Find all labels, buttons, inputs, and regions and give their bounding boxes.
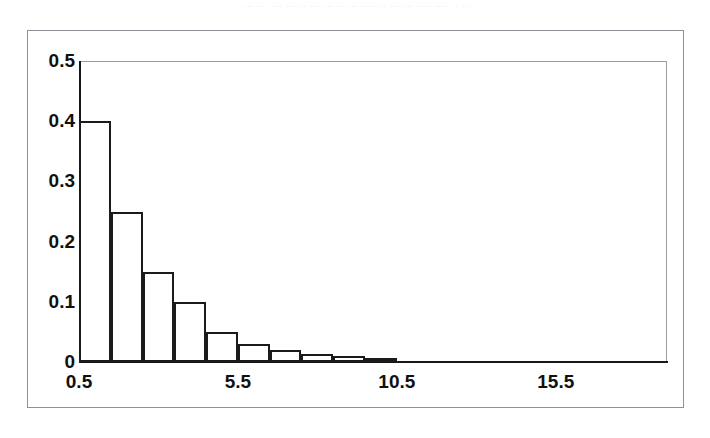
histogram-bar: [143, 272, 175, 362]
histogram-bar: [79, 121, 111, 362]
histogram-bar: [238, 344, 270, 362]
histogram-bar: [333, 356, 365, 362]
y-axis-tick-label: 0.1: [33, 291, 75, 313]
histogram-bar: [270, 350, 302, 362]
x-axis-tick-label: 10.5: [378, 371, 415, 393]
y-axis-labels: 00.10.20.30.40.5: [28, 31, 75, 409]
x-axis-tick-label: 0.5: [66, 371, 92, 393]
x-axis-labels: 0.55.510.515.5: [28, 371, 685, 409]
y-axis-tick-label: 0.5: [33, 50, 75, 72]
histogram-bar: [206, 332, 238, 362]
y-axis-tick-label: 0.2: [33, 231, 75, 253]
histogram-bar: [301, 354, 333, 362]
histogram-bar: [365, 358, 397, 362]
y-axis-tick-label: 0.4: [33, 110, 75, 132]
scan-artifact-text: · ·· ·· ···· ··· ·· ···· ·· ··· ·· ···· …: [0, 0, 710, 12]
figure-frame: 00.10.20.30.40.5 0.55.510.515.5: [27, 30, 684, 408]
histogram-bars: [79, 61, 667, 362]
x-axis-tick-label: 5.5: [225, 371, 251, 393]
histogram-bar: [174, 302, 206, 362]
histogram-bar: [111, 212, 143, 363]
y-axis-tick-label: 0.3: [33, 170, 75, 192]
y-axis-tick-label: 0: [33, 351, 75, 373]
x-axis-tick-label: 15.5: [537, 371, 574, 393]
